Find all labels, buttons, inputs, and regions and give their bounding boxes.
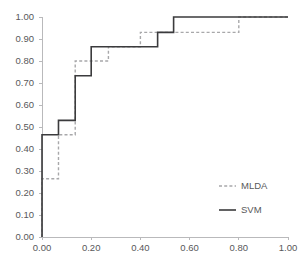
y-tick-label: 0.50 bbox=[16, 121, 35, 132]
y-tick-label: 0.00 bbox=[16, 231, 35, 242]
y-tick-label: 0.90 bbox=[16, 33, 35, 44]
y-tick-label: 0.30 bbox=[16, 165, 35, 176]
x-tick-label: 0.40 bbox=[131, 242, 150, 253]
x-tick-label: 0.20 bbox=[82, 242, 101, 253]
y-tick-label: 0.20 bbox=[16, 187, 35, 198]
chart-legend: MLDASVM bbox=[219, 180, 268, 215]
y-tick-label: 0.40 bbox=[16, 143, 35, 154]
legend-label-mlda: MLDA bbox=[241, 180, 268, 191]
x-tick-label: 1.00 bbox=[279, 242, 298, 253]
y-axis-tick-labels: 0.000.100.200.300.400.500.600.700.800.90… bbox=[16, 11, 35, 242]
legend-label-svm: SVM bbox=[241, 204, 262, 215]
y-tick-label: 0.60 bbox=[16, 99, 35, 110]
roc-chart: 0.000.100.200.300.400.500.600.700.800.90… bbox=[0, 0, 303, 268]
x-tick-label: 0.00 bbox=[33, 242, 52, 253]
y-tick-label: 0.80 bbox=[16, 55, 35, 66]
y-tick-label: 0.10 bbox=[16, 209, 35, 220]
y-tick-label: 1.00 bbox=[16, 11, 35, 22]
x-tick-label: 0.60 bbox=[180, 242, 199, 253]
roc-chart-svg: 0.000.100.200.300.400.500.600.700.800.90… bbox=[0, 0, 303, 268]
y-tick-label: 0.70 bbox=[16, 77, 35, 88]
x-tick-label: 0.80 bbox=[230, 242, 249, 253]
x-axis-tick-labels: 0.000.200.400.600.801.00 bbox=[33, 242, 298, 253]
